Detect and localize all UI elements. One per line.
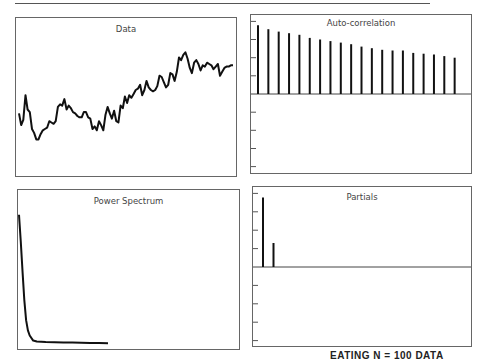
top-rule [15, 3, 430, 4]
power-spectrum-panel: Power Spectrum [17, 189, 240, 350]
power-spectrum-line-plot [18, 190, 239, 349]
figure-caption: EATING N = 100 DATA [330, 350, 444, 360]
autocorrelation-panel: Auto-correlation [250, 14, 472, 174]
partials-panel: Partials [252, 186, 472, 347]
data-panel: Data [15, 17, 237, 177]
partials-bar-plot [253, 187, 471, 346]
data-line-plot [16, 18, 236, 176]
autocorrelation-bar-plot [251, 15, 471, 173]
